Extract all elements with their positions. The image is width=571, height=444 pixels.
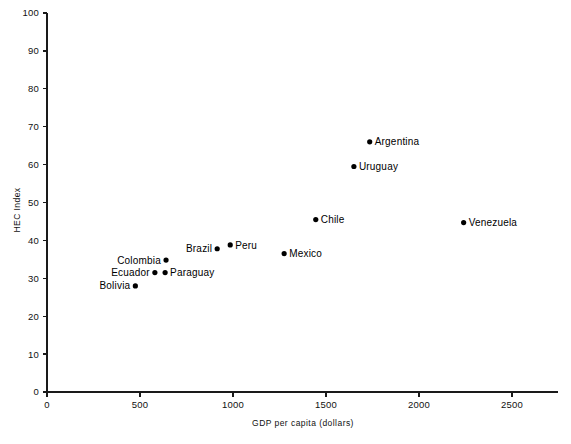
y-axis-tick-label: 100 xyxy=(23,7,39,18)
chart-axes xyxy=(47,13,558,392)
x-axis-tick-label: 500 xyxy=(132,399,148,410)
y-axis-tick-label: 90 xyxy=(28,45,39,56)
y-axis-tick-label: 20 xyxy=(28,311,39,322)
y-axis-tick-label: 60 xyxy=(28,159,39,170)
data-point-ecuador xyxy=(152,270,157,275)
data-point-label-ecuador: Ecuador xyxy=(111,267,150,278)
data-point-label-argentina: Argentina xyxy=(375,136,420,147)
y-axis-tick-label: 50 xyxy=(28,197,39,208)
data-point-uruguay xyxy=(351,164,356,169)
data-point-label-brazil: Brazil xyxy=(186,243,212,254)
y-axis-tick-label: 0 xyxy=(34,386,39,397)
data-point-label-venezuela: Venezuela xyxy=(469,217,518,228)
data-point-chile xyxy=(313,217,318,222)
data-point-label-bolivia: Bolivia xyxy=(99,280,130,291)
data-point-label-mexico: Mexico xyxy=(289,248,322,259)
x-axis-tick-label: 0 xyxy=(44,399,49,410)
data-point-label-chile: Chile xyxy=(321,214,345,225)
scatter-chart: 0102030405060708090100050010001500200025… xyxy=(0,0,571,444)
data-point-paraguay xyxy=(163,270,168,275)
chart-ticks: 0102030405060708090100050010001500200025… xyxy=(23,7,523,410)
data-point-colombia xyxy=(163,258,168,263)
chart-data-points: BoliviaEcuadorColombiaParaguayBrazilPeru… xyxy=(99,136,517,291)
data-point-peru xyxy=(228,242,233,247)
x-axis-title: GDP per capita (dollars) xyxy=(252,418,354,428)
data-point-venezuela xyxy=(461,220,466,225)
y-axis-tick-label: 10 xyxy=(28,349,39,360)
data-point-label-uruguay: Uruguay xyxy=(359,161,398,172)
x-axis-tick-label: 1000 xyxy=(222,399,244,410)
data-point-mexico xyxy=(282,251,287,256)
y-axis-tick-label: 40 xyxy=(28,235,39,246)
y-axis-tick-label: 80 xyxy=(28,83,39,94)
y-axis-title: HEC Index xyxy=(12,187,22,232)
data-point-brazil xyxy=(215,246,220,251)
chart-canvas: 0102030405060708090100050010001500200025… xyxy=(0,0,571,444)
x-axis-tick-label: 1500 xyxy=(315,399,337,410)
y-axis-tick-label: 70 xyxy=(28,121,39,132)
data-point-label-paraguay: Paraguay xyxy=(170,267,214,278)
y-axis-tick-label: 30 xyxy=(28,273,39,284)
x-axis-tick-label: 2000 xyxy=(408,399,430,410)
data-point-label-colombia: Colombia xyxy=(117,255,161,266)
data-point-argentina xyxy=(367,139,372,144)
data-point-bolivia xyxy=(133,283,138,288)
x-axis-tick-label: 2500 xyxy=(501,399,523,410)
data-point-label-peru: Peru xyxy=(235,240,257,251)
